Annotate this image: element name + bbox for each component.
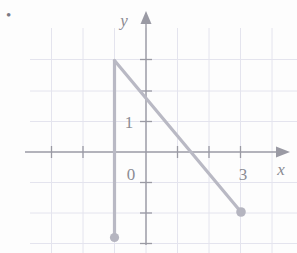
y-axis-label: y bbox=[118, 11, 128, 30]
x-axis-arrowhead bbox=[276, 147, 290, 158]
lower-endpoint-dot bbox=[110, 233, 119, 242]
grid-lines bbox=[30, 28, 297, 253]
origin-label: 0 bbox=[127, 165, 136, 184]
y-tick-label-one: 1 bbox=[125, 113, 134, 132]
y-axis-arrowhead bbox=[141, 11, 152, 24]
graph-figure: y x 0 1 3 • bbox=[0, 0, 297, 253]
right-endpoint-dot bbox=[236, 207, 246, 217]
x-tick-label-three: 3 bbox=[239, 165, 248, 184]
coordinate-plot: y x 0 1 3 • bbox=[0, 0, 297, 253]
bullet-marker: • bbox=[6, 7, 11, 23]
x-axis-label: x bbox=[276, 160, 285, 179]
